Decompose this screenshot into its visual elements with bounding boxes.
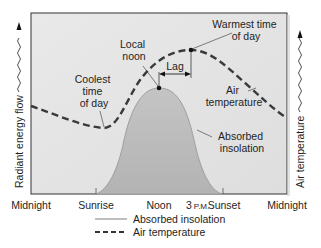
x-tick-midnight-end: Midnight: [267, 199, 307, 211]
absorbed-insolation-label: Absorbed insolation: [218, 130, 266, 154]
local-noon-label: Local noon: [120, 38, 148, 62]
wavy-arrow-up-icon: [18, 38, 21, 92]
legend: Absorbed insolation Air temperature: [95, 213, 225, 238]
x-tick-midnight-start: Midnight: [11, 199, 51, 211]
left-y-axis-label: Radiant energy flow: [13, 95, 25, 188]
diagram-canvas: Local noon Warmest time of day Coolest t…: [0, 0, 321, 248]
x-tick-3pm: 3P.M.: [186, 199, 209, 211]
x-axis: Midnight Sunrise Noon 3P.M. Sunset Midni…: [11, 199, 307, 211]
x-tick-sunset: Sunset: [208, 199, 241, 211]
x-tick-sunrise: Sunrise: [78, 199, 114, 211]
wavy-arrow-up-icon: [299, 34, 302, 112]
right-y-axis: Air temperature: [294, 30, 306, 188]
right-y-axis-label: Air temperature: [294, 115, 306, 188]
legend-air-temperature: Air temperature: [133, 226, 206, 238]
lag-label: Lag: [166, 60, 184, 72]
legend-absorbed-insolation: Absorbed insolation: [133, 213, 225, 225]
left-y-axis: Radiant energy flow: [13, 22, 25, 188]
x-tick-noon: Noon: [146, 199, 171, 211]
